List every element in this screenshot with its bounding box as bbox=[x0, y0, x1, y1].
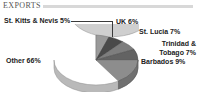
pie-label-trinidad-tobago: Trinidad & Tobago 7% bbox=[140, 40, 196, 57]
pie-chart-svg bbox=[53, 24, 139, 92]
page-title: EXPORTS bbox=[3, 1, 41, 10]
pie-chart bbox=[53, 24, 139, 92]
title-divider bbox=[43, 5, 193, 8]
pie-label-uk: UK 6% bbox=[116, 18, 138, 27]
leader-line-vertical bbox=[112, 21, 113, 37]
pie-label-st-kitts-nevis: St. Kitts & Nevis 5% bbox=[4, 17, 70, 26]
chart-header: EXPORTS bbox=[0, 0, 199, 13]
leader-line-horizontal bbox=[71, 21, 113, 22]
pie-label-barbados: Barbados 9% bbox=[141, 58, 185, 67]
pie-slices bbox=[69, 24, 139, 89]
pie-label-other: Other 66% bbox=[6, 57, 41, 66]
pie-label-st-lucia: St. Lucia 7% bbox=[139, 28, 180, 37]
